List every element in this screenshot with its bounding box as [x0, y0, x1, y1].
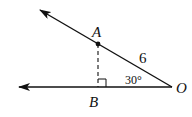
right-angle-marker	[98, 79, 106, 87]
label-angle-30: 30°	[125, 73, 142, 87]
label-o: O	[176, 80, 187, 96]
ray-oa	[40, 10, 172, 87]
label-length-6: 6	[139, 50, 147, 66]
point-a-dot	[96, 42, 101, 47]
geometry-diagram: A B O 6 30°	[0, 0, 192, 117]
label-a: A	[91, 24, 102, 40]
label-b: B	[89, 94, 98, 110]
